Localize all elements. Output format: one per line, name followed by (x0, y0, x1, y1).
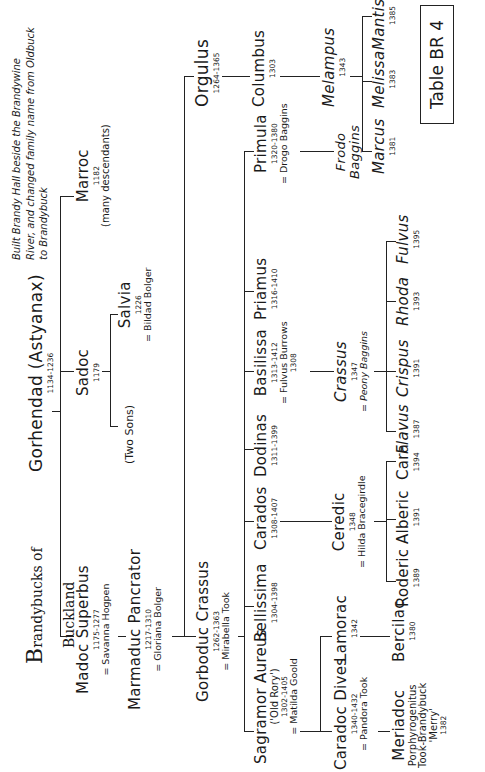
connector (280, 521, 332, 522)
person-flavus: Flavus 1387 (396, 404, 421, 454)
person-priamus: Priamus 1316-1410 (254, 258, 279, 320)
connector (222, 76, 250, 77)
name: Bellissima (254, 563, 270, 642)
person-basilissa: Basilissa 1313-1412 = Fulvus Burrows 130… (254, 321, 297, 404)
name: Melampus (322, 28, 338, 107)
person-two-sons: (Two Sons) (124, 405, 136, 464)
nickname: 'Merry' (429, 683, 440, 768)
note-line-3: to Brandybuck (37, 27, 51, 260)
connector (280, 76, 320, 77)
melampus-children-bar (362, 17, 363, 152)
connector (110, 426, 118, 427)
gen4-bar (244, 152, 245, 732)
name: Roderic (396, 549, 412, 607)
name: Crassus (334, 331, 350, 412)
name: Lamorac (334, 595, 350, 662)
name: Alberic (396, 490, 412, 544)
name: Basilissa (254, 321, 270, 404)
person-fulvus: Fulvus 1395 (396, 214, 421, 264)
dates: 1342 (351, 595, 359, 662)
dates: 1304-1398 (271, 563, 279, 642)
founding-note: Built Brandy Hall beside the Brandywine … (10, 27, 51, 260)
dates: 1395 (413, 214, 421, 264)
person-carados: Carados 1308-1407 (254, 486, 279, 550)
connector (118, 636, 126, 637)
name: Sadoc (76, 349, 92, 396)
extra: (many descendants) (101, 124, 112, 227)
spouse: = Drogo Baggins (279, 103, 289, 184)
connector (172, 636, 184, 637)
person-melampus: Melampus 1343 (322, 28, 347, 107)
name: Priamus (254, 258, 270, 320)
person-columbus: Columbus 1303 (252, 30, 277, 107)
dates: 1382 (440, 683, 448, 768)
person-crassus: Crassus 1347 = Peony Baggins (334, 331, 369, 412)
dates: 1391 (413, 490, 421, 544)
person-rhoda: Rhoda 1393 (396, 277, 421, 326)
name: Orgulus (194, 39, 212, 107)
spouse: = Hilda Bracegirdle (357, 475, 367, 568)
person-marmaduc: Marmaduc Pancrator 1217-1310 = Gloriana … (128, 549, 163, 710)
connector (374, 521, 386, 522)
nickname: ('Old Rory') (270, 629, 281, 764)
connector (320, 731, 332, 732)
gen3-bar (184, 77, 185, 637)
dates: 1385 (389, 0, 397, 50)
name: Bercilac (392, 600, 408, 662)
name: Melissa (372, 51, 388, 108)
person-frodo: Frodo Baggins (334, 122, 361, 182)
name: Ceredic (332, 475, 348, 568)
connector (360, 636, 390, 637)
name: Gorhendad (Astyanax) (28, 274, 46, 472)
person-meriadoc: Meriadoc Porphyrogenitus Took-Brandybuck… (392, 683, 448, 768)
sagramor-children-bar (320, 637, 321, 732)
person-ceredic: Ceredic 1348 = Hilda Bracegirdle (332, 475, 367, 568)
name: Frodo Baggins (334, 122, 361, 182)
person-lamorac: Lamorac 1342 (334, 595, 359, 662)
dates: 1343 (339, 28, 347, 107)
connector (300, 151, 334, 152)
note-line-1: Built Brandy Hall beside the Brandywine (10, 27, 24, 260)
person-marcus: Marcus 1381 (372, 118, 397, 174)
dates: 1264-1365 (213, 39, 221, 107)
name: Flavus (396, 404, 412, 454)
spouse: = Gloriana Bolger (153, 549, 163, 710)
connector (300, 731, 320, 732)
connector (60, 371, 74, 372)
dates: 1383 (389, 51, 397, 108)
person-sagramor: Sagramor Aureus ('Old Rory') 1302-1405 =… (254, 629, 299, 764)
name: Marcus (372, 118, 388, 174)
person-roderic: Roderic 1389 (396, 549, 421, 607)
table-label: Table BR 4 (420, 5, 454, 124)
dates: 1393 (413, 277, 421, 326)
person-dodinas: Dodinas 1311-1399 (254, 414, 279, 477)
name: (Two Sons) (124, 405, 136, 464)
person-madoc: Madoc Superbus 1175-1277 = Savanna Hogpe… (76, 565, 111, 694)
name: Meriadoc (392, 683, 408, 768)
name: Rhoda (396, 277, 412, 326)
name: Dodinas (254, 414, 270, 477)
person-orgulus: Orgulus 1264-1365 (194, 39, 221, 107)
title-initial: B (22, 648, 47, 664)
connector (378, 731, 390, 732)
connector (60, 636, 74, 637)
name: Gorboduc Crassus (196, 561, 212, 702)
name: Mantissa (372, 0, 388, 50)
dates: 1308-1407 (271, 486, 279, 550)
dates: 1389 (413, 549, 421, 607)
sadoc-children-bar (110, 315, 111, 427)
connector (320, 636, 332, 637)
dates: 1303 (269, 30, 277, 107)
note-line-2: River, and changed family name from Oldb… (24, 27, 38, 260)
crassus-children-bar (386, 242, 387, 432)
name: Carados (254, 486, 270, 550)
name: Salvia (118, 268, 134, 342)
person-gorboduc: Gorboduc Crassus 1262-1363 = Mirabella T… (196, 561, 231, 702)
connector (350, 76, 362, 77)
dates: 1134-1236 (47, 274, 55, 472)
name: Marroc (76, 124, 92, 227)
connector (102, 371, 110, 372)
dates: 1381 (389, 118, 397, 174)
person-mantissa: Mantissa 1385 (372, 0, 397, 50)
person-bercilac: Bercilac 1380 (392, 600, 417, 662)
